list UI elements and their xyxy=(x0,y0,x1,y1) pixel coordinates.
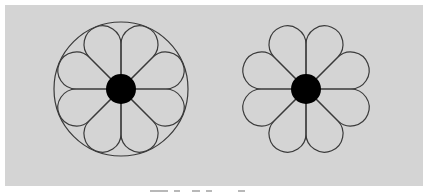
figure-caption-clipped xyxy=(150,188,280,193)
flower-diagram xyxy=(0,0,429,193)
center-disc xyxy=(106,74,136,104)
flower-with-enclosing-circle xyxy=(54,22,188,156)
caption-glyph-fragment xyxy=(174,190,180,192)
caption-glyph-fragment xyxy=(192,190,200,192)
caption-text xyxy=(150,190,168,192)
flower-without-circle xyxy=(243,26,369,152)
caption-glyph-fragment xyxy=(238,190,245,192)
center-disc xyxy=(291,74,321,104)
caption-glyph-fragment xyxy=(206,190,212,192)
